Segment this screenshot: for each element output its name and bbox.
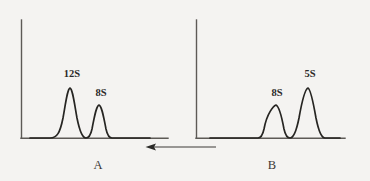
figure-container: 12S 8S A 8S 5S B <box>0 0 370 181</box>
panel-b: 8S 5S B <box>196 20 345 172</box>
panel-a-trace <box>30 88 150 138</box>
sedimentation-profile-figure: 12S 8S A 8S 5S B <box>0 0 370 181</box>
panel-a-label: A <box>93 158 102 172</box>
panel-a-peak-label-8s: 8S <box>95 87 106 98</box>
panel-b-peak-label-8s: 8S <box>271 87 282 98</box>
conversion-arrow <box>146 144 217 151</box>
panel-a: 12S 8S A <box>21 20 168 172</box>
panel-a-peak-label-12s: 12S <box>64 68 81 79</box>
panel-b-label: B <box>268 158 276 172</box>
panel-b-peak-label-5s: 5S <box>304 68 315 79</box>
